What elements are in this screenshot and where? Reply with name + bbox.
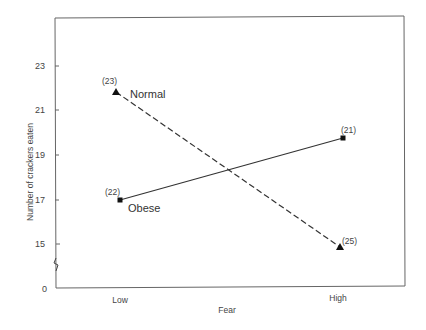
y-tick-19: 19 bbox=[35, 150, 45, 160]
y-tick-21: 21 bbox=[35, 105, 45, 115]
x-tick-low: Low bbox=[112, 295, 128, 305]
obese-series-label: Obese bbox=[128, 202, 160, 214]
obese-series-line bbox=[120, 138, 343, 200]
x-axis-title: Fear bbox=[218, 305, 236, 315]
obese-low-square-marker bbox=[118, 198, 123, 203]
normal-high-n-label: (25) bbox=[342, 236, 357, 246]
obese-high-square-marker bbox=[341, 136, 346, 141]
y-tick-17: 17 bbox=[35, 195, 45, 205]
normal-series-label: Normal bbox=[130, 88, 165, 100]
chart: 23 21 19 17 15 0 Number of crackers eate… bbox=[0, 0, 426, 330]
x-tick-high: High bbox=[329, 293, 347, 303]
plot-frame bbox=[55, 16, 405, 288]
obese-high-n-label: (21) bbox=[341, 125, 356, 135]
normal-low-triangle-marker bbox=[112, 88, 120, 95]
obese-low-n-label: (22) bbox=[105, 187, 120, 197]
y-axis-title: Number of crackers eaten bbox=[25, 123, 35, 221]
normal-low-n-label: (23) bbox=[102, 76, 117, 86]
y-tick-0: 0 bbox=[42, 284, 47, 294]
y-tick-23: 23 bbox=[35, 61, 45, 71]
y-tick-15: 15 bbox=[35, 239, 45, 249]
